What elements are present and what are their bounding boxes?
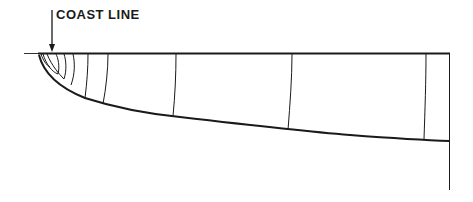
coastal-profile-diagram [0, 0, 473, 202]
coast-arrow-icon [49, 10, 55, 52]
sea-floor-profile [39, 55, 450, 141]
